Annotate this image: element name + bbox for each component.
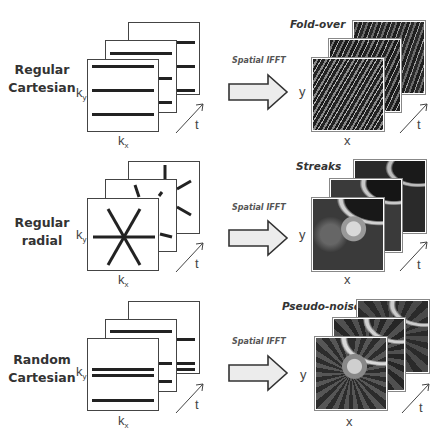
sampled-line xyxy=(92,399,154,402)
sampled-line xyxy=(110,52,172,55)
ifft-arrow-icon xyxy=(228,74,290,110)
sampled-line xyxy=(92,368,154,371)
row-label-line2: radial xyxy=(2,232,82,250)
ifft-label: Spatial IFFT xyxy=(232,337,286,346)
row-label-line1: Regular xyxy=(2,61,82,79)
ifft-arrow-icon xyxy=(228,355,290,391)
kspace-frame-t1 xyxy=(87,198,159,271)
t-axis-label: t xyxy=(195,117,199,132)
image-frame-t1 xyxy=(312,198,384,271)
row-label-line2: Cartesian xyxy=(2,369,82,387)
ifft-label: Spatial IFFT xyxy=(232,203,286,212)
x-axis-label: x xyxy=(344,133,351,148)
ky-axis-label: ky xyxy=(76,85,87,102)
sampled-line xyxy=(92,113,154,116)
sampled-line xyxy=(92,374,154,377)
artifact-label: Fold-over xyxy=(290,18,345,30)
ky-axis-label: ky xyxy=(76,227,87,244)
kspace-frame-t1 xyxy=(87,338,159,411)
t-axis-label: t xyxy=(195,256,199,271)
row-label-random-cartesian: Random Cartesian xyxy=(2,351,82,387)
time-arrow-icon xyxy=(174,239,214,279)
time-arrow-icon xyxy=(174,100,214,140)
x-axis-label: x xyxy=(346,414,353,429)
t-axis-label: t xyxy=(195,397,199,412)
kx-axis-label: kx xyxy=(118,272,129,289)
sampled-line xyxy=(110,330,172,333)
kx-axis-label: kx xyxy=(118,413,129,430)
sampled-line xyxy=(92,89,154,92)
t-axis-label: t xyxy=(419,400,423,415)
row-label-line1: Regular xyxy=(2,214,82,232)
row-label-line1: Random xyxy=(2,351,82,369)
row-label-regular-cartesian: Regular Cartesian xyxy=(2,61,82,97)
y-axis-label: y xyxy=(299,227,306,242)
artifact-label: Pseudo-noise xyxy=(282,300,361,312)
radial-spokes xyxy=(88,199,159,271)
y-axis-label: y xyxy=(300,367,307,382)
x-axis-label: x xyxy=(344,272,351,287)
image-frame-t1 xyxy=(315,337,387,410)
row-label-regular-radial: Regular radial xyxy=(2,214,82,250)
kspace-frame-t1 xyxy=(87,59,159,132)
y-axis-label: y xyxy=(299,84,306,99)
kx-axis-label: kx xyxy=(118,133,129,150)
sampled-line xyxy=(92,65,154,68)
t-axis-label: t xyxy=(417,117,421,132)
ky-axis-label: ky xyxy=(76,364,87,381)
artifact-label: Streaks xyxy=(296,160,341,172)
image-frame-t1 xyxy=(312,58,384,131)
time-arrow-icon xyxy=(174,380,214,420)
ifft-arrow-icon xyxy=(228,220,290,256)
row-label-line2: Cartesian xyxy=(2,79,82,97)
t-axis-label: t xyxy=(417,257,421,272)
ifft-label: Spatial IFFT xyxy=(232,56,286,65)
